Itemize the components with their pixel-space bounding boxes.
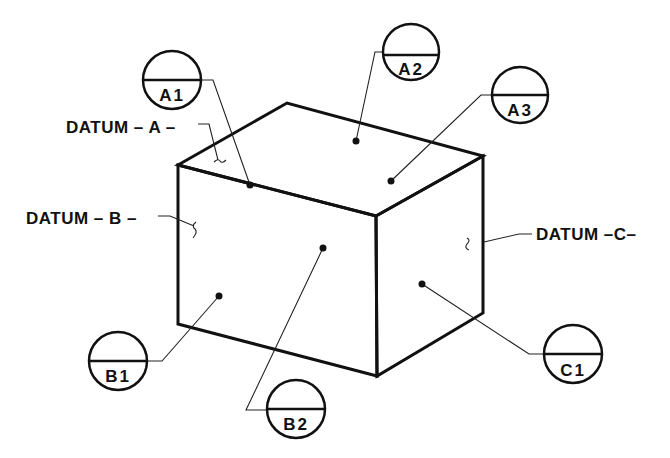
leader-a1 bbox=[201, 80, 250, 185]
datum-c-leader bbox=[466, 234, 532, 250]
target-label-a2: A2 bbox=[398, 60, 424, 79]
leader-b1 bbox=[147, 296, 219, 361]
dot-a1 bbox=[247, 182, 254, 189]
datum-a-leader bbox=[198, 124, 226, 162]
target-b1: B1 bbox=[89, 332, 147, 390]
box-top-face bbox=[178, 103, 483, 216]
dot-c1 bbox=[419, 281, 426, 288]
datum-leaders bbox=[158, 124, 532, 250]
dot-a2 bbox=[353, 138, 360, 145]
datum-a-label: DATUM – A – bbox=[66, 118, 176, 137]
target-label-a1: A1 bbox=[159, 86, 185, 105]
target-label-c1: C1 bbox=[560, 361, 586, 380]
target-label-b1: B1 bbox=[105, 367, 131, 386]
dot-a3 bbox=[388, 178, 395, 185]
datum-b-label: DATUM – B – bbox=[26, 209, 137, 228]
box-right-face bbox=[376, 156, 483, 376]
target-a1: A1 bbox=[143, 51, 201, 109]
datum-c-label: DATUM –C– bbox=[536, 225, 637, 244]
box bbox=[178, 103, 483, 376]
target-b2: B2 bbox=[267, 380, 325, 438]
target-c1: C1 bbox=[544, 325, 602, 383]
target-label-a3: A3 bbox=[507, 101, 533, 120]
target-dots bbox=[216, 138, 426, 300]
target-a3: A3 bbox=[492, 67, 548, 123]
leader-a3 bbox=[391, 95, 492, 181]
target-label-b2: B2 bbox=[283, 415, 309, 434]
datum-diagram: A1 A2 A3 B1 B2 C1 DATUM – A – DATUM – B … bbox=[0, 0, 670, 458]
dot-b1 bbox=[216, 293, 223, 300]
target-a2: A2 bbox=[383, 24, 439, 80]
dot-b2 bbox=[320, 245, 327, 252]
